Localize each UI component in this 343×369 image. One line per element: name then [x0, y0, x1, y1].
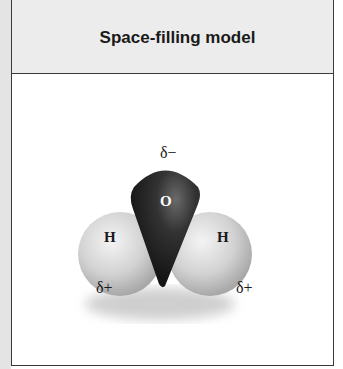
molecule-stage: O H H δ− δ+ δ+: [12, 74, 333, 364]
oxygen-partial-charge: δ−: [160, 144, 177, 162]
panel-title: Space-filling model: [100, 28, 256, 48]
figure-panel: Space-filling model: [11, 0, 334, 366]
panel-header: Space-filling model: [12, 0, 333, 74]
hydrogen-left-partial-charge: δ+: [96, 279, 113, 297]
hydrogen-symbol-left: H: [104, 229, 116, 246]
page-gutter: [0, 0, 11, 369]
water-molecule-illustration: [12, 74, 335, 364]
hydrogen-right-partial-charge: δ+: [236, 279, 253, 297]
hydrogen-symbol-right: H: [217, 229, 229, 246]
oxygen-symbol: O: [160, 193, 172, 210]
